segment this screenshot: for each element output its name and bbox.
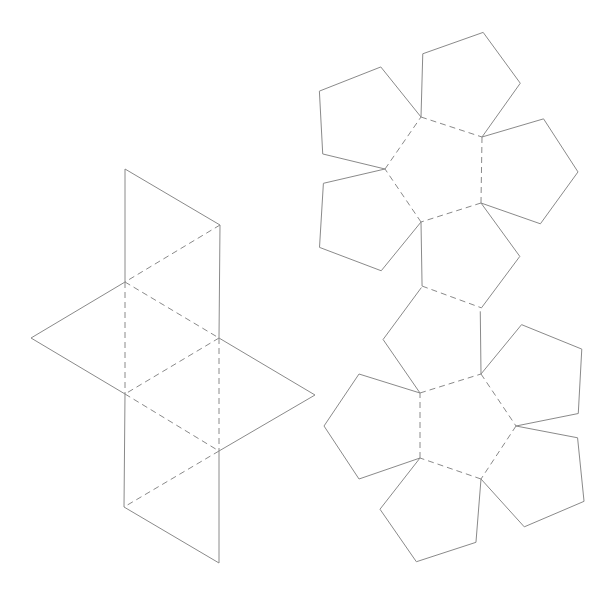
octahedron-net [31,169,315,563]
cut-line [320,247,382,270]
cut-line [381,222,421,271]
cut-line [516,426,578,438]
cut-line [383,339,420,393]
cut-line [578,349,582,413]
cut-line [324,374,359,426]
cut-line [380,509,416,562]
cut-line [324,426,359,479]
cut-line [380,458,420,509]
cut-line [219,225,220,338]
fold-line [421,117,482,137]
cut-line [476,479,481,542]
fold-line [421,203,481,222]
fold-line [125,394,219,451]
cut-line [124,394,125,507]
cut-line [522,325,582,349]
cut-line [482,119,544,137]
dodecahedron-net [319,32,584,561]
cut-line [323,169,385,183]
cut-line [481,479,524,527]
cut-line [421,222,422,286]
cut-line [483,32,520,83]
cut-line [578,438,584,502]
fold-line [125,225,220,282]
fold-line [125,338,219,394]
fold-line [420,374,481,393]
fold-line [481,137,482,203]
cut-line [320,183,324,247]
cut-line [481,325,522,374]
fold-line [422,286,481,308]
cut-line [516,414,578,426]
cut-line [359,458,420,479]
cut-line [481,203,520,256]
fold-line [125,282,219,338]
cut-line [319,67,380,91]
cut-line [125,169,220,225]
cut-line [219,338,315,395]
cut-line [481,256,519,307]
fold-line [481,426,516,479]
cut-line [381,67,421,117]
cut-line [323,154,385,169]
fold-line [385,117,421,169]
cut-line [480,311,481,374]
cut-line [421,54,423,117]
fold-line [481,374,516,426]
cut-line [383,288,421,340]
cut-line [540,172,578,224]
cut-line [31,282,125,338]
cut-line [319,91,322,154]
fold-line [385,169,421,222]
cut-line [416,542,476,561]
cut-line [544,119,578,172]
cut-line [31,338,125,394]
cut-line [124,507,219,563]
fold-line [124,451,219,507]
diagram-canvas [0,0,606,590]
cut-line [359,374,420,393]
cut-line [524,501,584,527]
cut-line [481,203,540,224]
fold-line [420,458,481,479]
cut-line [423,32,483,53]
cut-line [482,83,520,137]
cut-line [219,395,315,451]
